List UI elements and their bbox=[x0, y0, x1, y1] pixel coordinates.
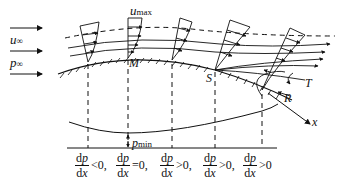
station-lines bbox=[88, 60, 262, 148]
gradient-label-2: dpdx =0, bbox=[116, 152, 148, 179]
point-s-label: S bbox=[206, 72, 212, 84]
u-max-label: umax bbox=[130, 4, 152, 17]
gradient-label-5: dpdx >0 bbox=[243, 152, 272, 179]
velocity-profile-1 bbox=[80, 22, 99, 62]
gradient-label-3: dpdx >0, bbox=[160, 152, 192, 179]
boundary-layer-edge bbox=[65, 27, 335, 38]
velocity-profile-5 bbox=[262, 28, 305, 90]
velocity-profile-2 bbox=[128, 18, 142, 58]
gradient-label-1: dpdx <0, bbox=[75, 152, 107, 179]
velocity-profile-3 bbox=[172, 18, 192, 60]
u-infinity-label: u∞ bbox=[10, 33, 23, 46]
pressure-curve bbox=[69, 104, 278, 133]
p-min-label: pmin bbox=[132, 137, 152, 149]
streamlines bbox=[68, 40, 330, 70]
gradient-label-4: dpdx >0, bbox=[203, 152, 235, 179]
point-m-label: M bbox=[129, 57, 139, 69]
point-t-label: T bbox=[305, 77, 312, 89]
p-infinity-label: p∞ bbox=[10, 56, 23, 69]
x-axis-label: x bbox=[312, 116, 317, 128]
point-r-label: R bbox=[284, 92, 291, 104]
